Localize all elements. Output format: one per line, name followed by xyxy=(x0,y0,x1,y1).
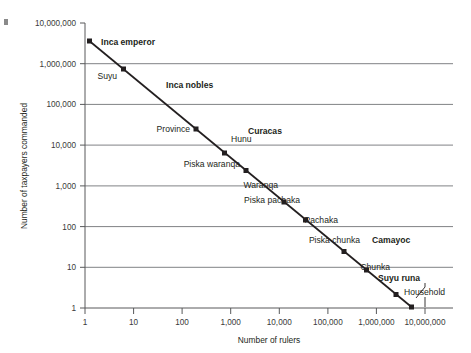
marker-household xyxy=(409,305,414,310)
chart-background xyxy=(0,0,471,353)
x-tick-label-10000: 10,000 xyxy=(267,318,292,327)
label-camayoc: Camayoc xyxy=(372,235,410,245)
log-log-chart: 10,000,000 1,000,000 100,000 10,000 1,00… xyxy=(0,0,471,353)
label-inca-emperor: Inca emperor xyxy=(101,37,156,47)
label-piska-waranqa: Piska waranqa xyxy=(184,159,241,169)
x-tick-label-10000000: 10,000,000 xyxy=(405,318,446,327)
marker-chunka xyxy=(394,292,399,297)
y-tick-label-100000: 100,000 xyxy=(46,100,76,109)
y-tick-label-10000000: 10,000,000 xyxy=(35,19,76,28)
y-tick-label-1: 1 xyxy=(71,304,76,313)
label-province: Province xyxy=(157,124,191,134)
label-curacas: Curacas xyxy=(248,126,282,136)
x-tick-label-100: 100 xyxy=(175,318,189,327)
x-tick-label-100000: 100,000 xyxy=(313,318,343,327)
label-chunka: Chunka xyxy=(360,262,390,272)
y-tick-label-1000: 1,000 xyxy=(56,182,77,191)
label-pachaka: Pachaka xyxy=(305,215,339,225)
label-waranqa: Waranqa xyxy=(243,180,278,190)
y-tick-label-100: 100 xyxy=(62,223,76,232)
label-suyu: Suyu xyxy=(97,71,117,81)
x-axis-title: Number of rulers xyxy=(238,335,300,345)
y-axis-title: Number of taxpayers commanded xyxy=(19,103,29,229)
label-household: Household xyxy=(404,287,445,297)
x-tick-label-1: 1 xyxy=(83,318,88,327)
marker-pachaka xyxy=(342,249,347,254)
label-inca-nobles: Inca nobles xyxy=(166,80,213,90)
y-tick-label-10: 10 xyxy=(67,263,77,272)
marker-province xyxy=(194,127,199,132)
y-tick-label-1000000: 1,000,000 xyxy=(40,60,77,69)
corner-mark-icon xyxy=(4,19,8,25)
label-piska-chunka: Piska chunka xyxy=(309,235,360,245)
x-tick-label-10: 10 xyxy=(129,318,139,327)
label-suyu-runa: Suyu runa xyxy=(378,273,420,283)
y-tick-label-10000: 10,000 xyxy=(51,141,76,150)
marker-inca-emperor xyxy=(87,39,92,44)
x-tick-label-1000: 1,000 xyxy=(220,318,241,327)
marker-suyu xyxy=(121,67,126,72)
label-piska-pachaka: Piska pachaka xyxy=(244,195,300,205)
x-tick-label-1000000: 1,000,000 xyxy=(358,318,395,327)
marker-hunu xyxy=(222,151,227,156)
marker-piska-waranqa xyxy=(244,168,249,173)
